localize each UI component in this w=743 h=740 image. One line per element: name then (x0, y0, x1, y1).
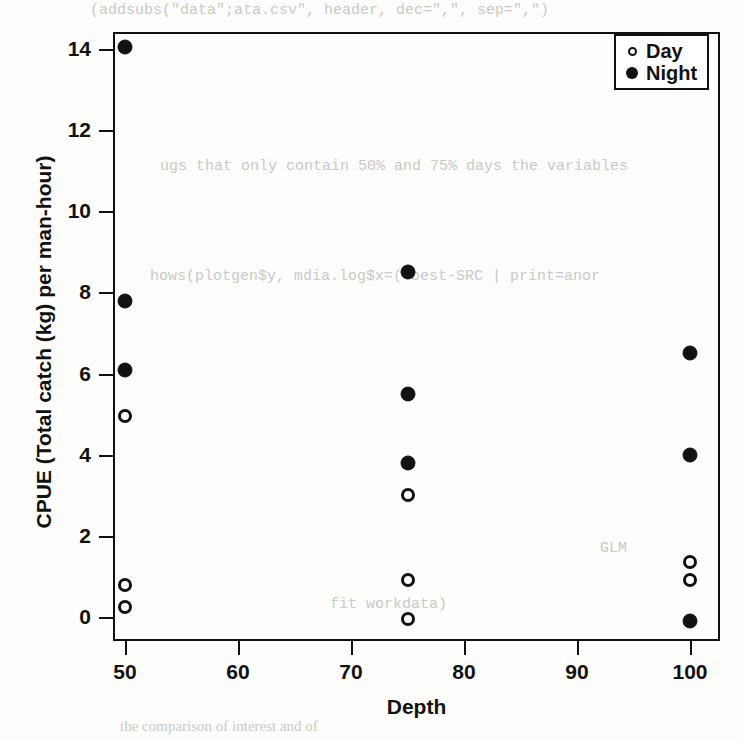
x-tick-label: 60 (203, 660, 273, 684)
y-tick-mark (99, 617, 113, 619)
bleed-text-top: (addsubs("data";ata.csv", header, dec=",… (90, 2, 549, 19)
x-tick-mark (577, 641, 579, 655)
x-tick-label: 70 (316, 660, 386, 684)
data-point-night (118, 293, 133, 308)
x-tick-mark (351, 641, 353, 655)
y-tick-mark (99, 292, 113, 294)
y-tick-mark (99, 374, 113, 376)
legend-item-day: Day (622, 40, 697, 62)
legend-label-night: Night (646, 63, 697, 83)
x-tick-mark (238, 641, 240, 655)
filled-circle-icon (622, 67, 642, 79)
data-point-day (401, 573, 415, 587)
y-tick-mark (99, 130, 113, 132)
data-point-night (683, 614, 698, 629)
legend-label-day: Day (646, 41, 683, 61)
data-point-day (401, 488, 415, 502)
x-tick-label: 100 (655, 660, 725, 684)
legend-item-night: Night (622, 62, 697, 84)
data-point-night (400, 386, 415, 401)
data-point-day (683, 573, 697, 587)
y-tick-mark (99, 211, 113, 213)
data-point-day (401, 612, 415, 626)
x-tick-mark (125, 641, 127, 655)
data-point-night (400, 455, 415, 470)
y-tick-mark (99, 536, 113, 538)
bleed-text-e: the comparison of interest and of (120, 718, 318, 735)
y-tick-mark (99, 49, 113, 51)
y-tick-mark (99, 455, 113, 457)
x-tick-label: 50 (90, 660, 160, 684)
data-point-day (118, 409, 132, 423)
data-point-night (400, 265, 415, 280)
x-tick-mark (690, 641, 692, 655)
data-point-day (118, 578, 132, 592)
y-axis-title: CPUE (Total catch (kg) per man-hour) (32, 32, 56, 652)
open-circle-icon (622, 47, 642, 56)
x-tick-label: 90 (542, 660, 612, 684)
data-point-day (118, 600, 132, 614)
data-point-night (118, 362, 133, 377)
scanned-figure-page: (addsubs("data";ata.csv", header, dec=",… (0, 0, 743, 740)
x-tick-label: 80 (429, 660, 499, 684)
data-point-night (118, 39, 133, 54)
data-point-night (683, 346, 698, 361)
x-tick-mark (464, 641, 466, 655)
legend: Day Night (614, 34, 709, 90)
data-point-day (683, 555, 697, 569)
x-axis-title: Depth (113, 695, 720, 719)
data-point-night (683, 447, 698, 462)
plot-area (113, 32, 720, 641)
